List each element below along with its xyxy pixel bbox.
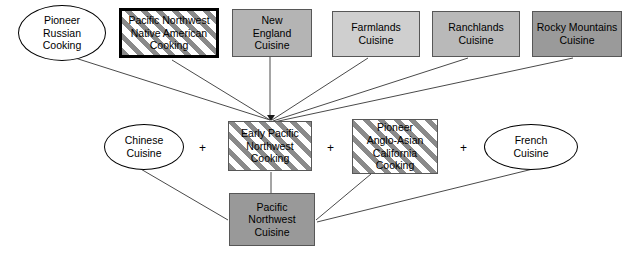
node-new-england-cuisine[interactable]: New England Cuisine bbox=[232, 9, 312, 57]
edge-line bbox=[72, 57, 270, 120]
node-label: Pioneer Russian Cooking bbox=[43, 14, 82, 52]
node-pacific-northwest-cuisine[interactable]: Pacific Northwest Cuisine bbox=[229, 193, 315, 246]
operator-plus-3: + bbox=[460, 142, 467, 154]
node-label: Pacific Northwest Cuisine bbox=[248, 201, 295, 239]
edge-line bbox=[273, 58, 468, 121]
edge-line bbox=[172, 60, 270, 120]
edge-line bbox=[316, 174, 371, 220]
edge-line bbox=[272, 58, 368, 120]
operator-plus-2: + bbox=[327, 142, 334, 154]
node-rocky-mountains-cuisine[interactable]: Rocky Mountains Cuisine bbox=[532, 11, 622, 57]
node-label: Rocky Mountains Cuisine bbox=[537, 21, 618, 46]
node-chinese-cuisine[interactable]: Chinese Cuisine bbox=[104, 124, 184, 170]
edge-line bbox=[317, 168, 537, 222]
node-ranchlands-cuisine[interactable]: Ranchlands Cuisine bbox=[432, 11, 520, 57]
diagram-canvas: Pioneer Russian Cooking Pacific Northwes… bbox=[0, 0, 627, 259]
node-french-cuisine[interactable]: French Cuisine bbox=[484, 124, 578, 170]
node-label: Farmlands Cuisine bbox=[351, 21, 401, 46]
node-pioneer-anglo-asian-california-cooking[interactable]: Pioneer Anglo-Asian California Cooking bbox=[352, 119, 438, 174]
node-pacific-northwest-native-american-cooking[interactable]: Pacific Northwest Native American Cookin… bbox=[119, 8, 219, 58]
node-label: French Cuisine bbox=[513, 134, 548, 159]
edge-line bbox=[274, 58, 573, 122]
edge-line bbox=[139, 168, 228, 220]
node-early-pacific-northwest-cooking[interactable]: Early Pacific Northwest Cooking bbox=[228, 121, 312, 171]
node-label: Early Pacific Northwest Cooking bbox=[241, 127, 299, 165]
node-label: New England Cuisine bbox=[253, 14, 292, 52]
node-label: Pioneer Anglo-Asian California Cooking bbox=[367, 121, 424, 171]
operator-plus-1: + bbox=[199, 142, 206, 154]
node-label: Pacific Northwest Native American Cookin… bbox=[128, 14, 209, 52]
node-farmlands-cuisine[interactable]: Farmlands Cuisine bbox=[332, 11, 420, 57]
node-label: Chinese Cuisine bbox=[125, 134, 164, 159]
node-label: Ranchlands Cuisine bbox=[448, 21, 503, 46]
node-pioneer-russian-cooking[interactable]: Pioneer Russian Cooking bbox=[18, 5, 106, 61]
